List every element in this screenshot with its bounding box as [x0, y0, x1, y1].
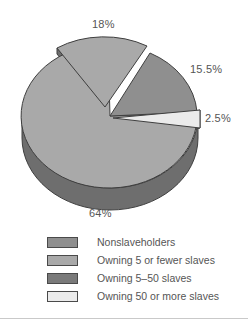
legend-swatch-nonslaveholders [47, 237, 78, 248]
legend-item-owning-5-or-fewer: Owning 5 or fewer slaves [0, 251, 248, 269]
pie-label-2-5-percent: 2.5% [205, 112, 231, 124]
legend-label-owning-5-or-fewer: Owning 5 or fewer slaves [97, 254, 215, 266]
pie-top-faces [21, 37, 200, 188]
legend-item-owning-50-or-more: Owning 50 or more slaves [0, 287, 248, 305]
pie-chart-area: 18% 15.5% 2.5% 64% [0, 0, 248, 232]
pie-label-18-percent: 18% [92, 18, 115, 30]
chart-legend: Nonslaveholders Owning 5 or fewer slaves… [0, 233, 248, 311]
legend-swatch-owning-50-or-more [47, 291, 78, 302]
legend-item-owning-5-50: Owning 5–50 slaves [0, 269, 248, 287]
pie-label-15-5-percent: 15.5% [190, 63, 222, 75]
legend-swatch-owning-5-or-fewer [47, 255, 78, 266]
bottom-divider [0, 318, 248, 319]
legend-label-owning-5-50: Owning 5–50 slaves [97, 272, 192, 284]
legend-swatch-owning-5-50 [47, 273, 78, 284]
legend-label-owning-50-or-more: Owning 50 or more slaves [97, 290, 219, 302]
pie-label-64-percent: 64% [89, 207, 112, 219]
legend-item-nonslaveholders: Nonslaveholders [0, 233, 248, 251]
legend-label-nonslaveholders: Nonslaveholders [97, 236, 175, 248]
